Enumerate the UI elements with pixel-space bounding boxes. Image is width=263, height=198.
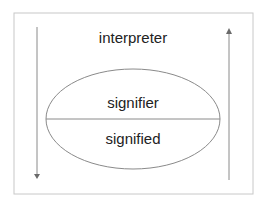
semiotic-diagram: interpreter signifier signified: [0, 0, 263, 198]
signified-label: signified: [105, 130, 160, 147]
down-arrow-icon: [34, 27, 40, 179]
up-arrow-icon: [226, 28, 232, 180]
interpreter-label: interpreter: [99, 29, 167, 46]
signifier-label: signifier: [107, 94, 159, 111]
